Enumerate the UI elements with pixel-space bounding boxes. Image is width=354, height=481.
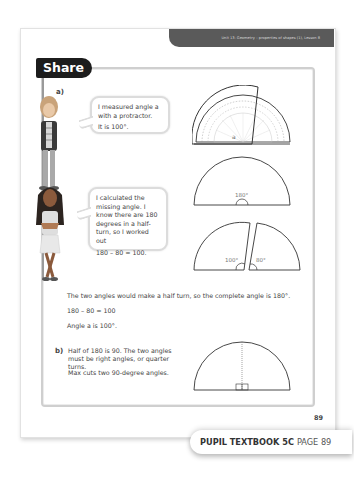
explanation-line-1: The two angles would make a half turn, s…	[67, 292, 290, 300]
bubble-text: I measured angle a with a protractor.	[98, 103, 162, 120]
page-number: 89	[314, 414, 323, 422]
speech-bubble-calculated: I calculated the missing angle. I know t…	[88, 187, 168, 251]
bubble-text: 180 – 80 = 100.	[96, 249, 160, 258]
angle-180-label: 180°	[235, 192, 248, 198]
character-girl-illustration	[33, 183, 67, 283]
part-b-text-1: Half of 180 is 90. The two angles must b…	[68, 347, 178, 371]
character-boy-illustration	[34, 94, 64, 192]
angle-a-label: a	[232, 133, 236, 140]
footer-page: PAGE 89	[297, 437, 331, 447]
angle-80-label: 80°	[256, 257, 266, 263]
protractor-diagram: a	[192, 85, 294, 147]
angle-100-label: 100°	[225, 257, 238, 263]
explanation-line-2: 180 – 80 = 100	[67, 307, 115, 315]
footer-page-label: PUPIL TEXTBOOK 5CPAGE 89	[190, 430, 352, 454]
section-title: Share	[36, 58, 92, 78]
part-b-label: b)	[55, 347, 63, 355]
bubble-text: It is 100°.	[98, 123, 162, 132]
bubble-text: I calculated the missing angle. I know t…	[96, 194, 160, 246]
semicircle-180-diagram: 180°	[192, 155, 292, 207]
unit-header-bar: Unit 13: Geometry – properties of shapes…	[169, 29, 334, 47]
split-semicircle-diagram: 100° 80°	[192, 215, 302, 272]
semicircle-right-angles-diagram	[192, 338, 292, 392]
explanation-line-3: Angle a is 100°.	[67, 322, 117, 330]
part-b-text-2: Max cuts two 90-degree angles.	[68, 369, 178, 377]
speech-bubble-measured: I measured angle a with a protractor. It…	[90, 96, 170, 134]
footer-book-title: PUPIL TEXTBOOK 5C	[200, 437, 294, 447]
